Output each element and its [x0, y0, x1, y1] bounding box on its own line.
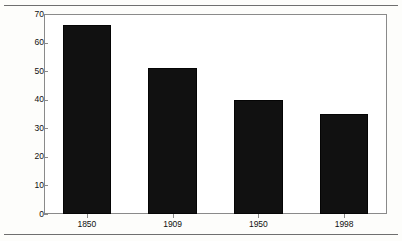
- bar: [63, 25, 111, 214]
- bar-chart: Average Weekly Hours of Production Worke…: [0, 0, 402, 241]
- y-axis-tick-label: 70: [22, 9, 44, 20]
- y-axis-tick-label: 40: [22, 94, 44, 105]
- y-axis-tick-mark: [44, 185, 48, 186]
- y-axis-tick-label: 50: [22, 66, 44, 77]
- x-axis-tick-mark: [173, 214, 174, 218]
- bottom-divider-rule: [4, 234, 398, 235]
- x-axis-tick-label: 1850: [52, 219, 122, 230]
- y-axis-tick-mark: [44, 157, 48, 158]
- top-divider-rule: [4, 5, 398, 6]
- y-axis-tick-label: 20: [22, 151, 44, 162]
- y-axis-tick-label: 10: [22, 180, 44, 191]
- y-axis-tick-mark: [44, 14, 48, 15]
- y-axis-tick-mark: [44, 128, 48, 129]
- y-axis-tick-mark: [44, 43, 48, 44]
- bar: [148, 68, 196, 214]
- x-axis-tick-label: 1950: [223, 219, 293, 230]
- y-axis-tick-label: 0: [22, 209, 44, 220]
- x-axis-tick-mark: [87, 214, 88, 218]
- y-axis-tick-mark: [44, 100, 48, 101]
- bar: [234, 100, 282, 214]
- y-axis-tick-mark: [44, 214, 48, 215]
- x-axis-tick-mark: [258, 214, 259, 218]
- x-axis-tick-label: 1998: [309, 219, 379, 230]
- x-axis-tick-label: 1909: [138, 219, 208, 230]
- y-axis-tick-label: 30: [22, 123, 44, 134]
- x-axis-tick-mark: [344, 214, 345, 218]
- bar: [320, 114, 368, 214]
- y-axis-tick-label: 60: [22, 37, 44, 48]
- y-axis-tick-mark: [44, 71, 48, 72]
